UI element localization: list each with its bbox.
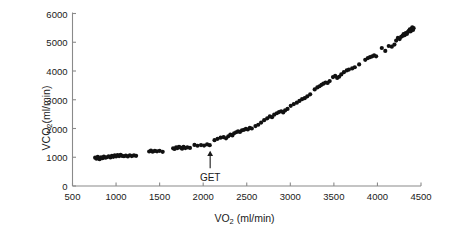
data-points-group: [93, 25, 416, 161]
y-tick-label: 6000: [30, 8, 68, 19]
x-tick-label: 2500: [236, 191, 257, 202]
data-point: [380, 46, 384, 50]
x-tick-label: 3000: [280, 191, 301, 202]
x-axis-title-subscript: 2: [230, 217, 234, 226]
y-tick-label: 0: [30, 181, 68, 192]
x-tick-label: 500: [65, 191, 81, 202]
y-axis-title-subscript: 2: [45, 123, 54, 127]
data-point: [392, 42, 396, 46]
data-point: [374, 54, 378, 58]
x-tick-label: 4000: [367, 191, 388, 202]
data-point: [250, 126, 254, 130]
x-tick-label: 2000: [193, 191, 214, 202]
data-point: [328, 79, 332, 83]
data-point: [208, 143, 212, 147]
x-axis-title-prefix: VO: [214, 212, 229, 224]
y-tick-label: 5000: [30, 37, 68, 48]
y-axis-title-suffix: (ml/min): [40, 86, 52, 124]
data-point: [357, 62, 361, 66]
get-annotation-label: GET: [200, 172, 221, 183]
axes-group: [73, 13, 422, 187]
data-point: [285, 107, 289, 111]
data-point: [308, 92, 312, 96]
data-point: [134, 154, 138, 158]
data-point: [161, 150, 165, 154]
x-axis-title-suffix: (ml/min): [234, 212, 275, 224]
data-point: [411, 26, 415, 30]
data-point: [383, 49, 387, 53]
x-tick-label: 3500: [323, 191, 344, 202]
x-tick-label: 4500: [410, 191, 431, 202]
x-axis-title: VO2 (ml/min): [0, 212, 449, 224]
x-tick-label: 1000: [105, 191, 126, 202]
data-point: [353, 65, 357, 69]
data-point: [195, 144, 199, 148]
get-arrow-head: [207, 151, 213, 156]
y-tick-label: 4000: [30, 66, 68, 77]
y-tick-label: 1000: [30, 152, 68, 163]
figure-container: 0100020003000400050006000 50010001500200…: [0, 0, 449, 236]
y-axis-title: VCO2(ml/min): [40, 86, 52, 151]
data-point: [188, 146, 192, 150]
annotation-arrow-group: [207, 151, 213, 169]
y-axis-title-prefix: VCO: [40, 128, 52, 151]
x-tick-label: 1500: [149, 191, 170, 202]
